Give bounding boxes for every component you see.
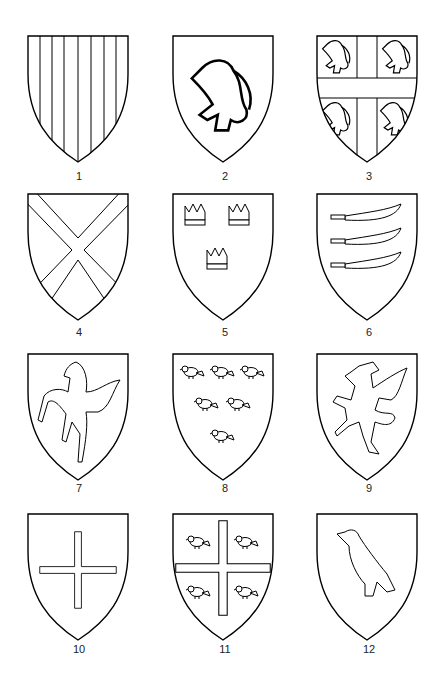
shield-5 bbox=[171, 192, 281, 324]
shield-number: 10 bbox=[24, 643, 134, 655]
shield-number: 3 bbox=[314, 170, 424, 182]
shield-10 bbox=[26, 512, 136, 644]
shield-number: 1 bbox=[24, 170, 134, 182]
shield-11 bbox=[171, 512, 281, 644]
shield-4 bbox=[26, 192, 136, 324]
shield-number: 6 bbox=[314, 326, 424, 338]
shield-3 bbox=[315, 34, 425, 166]
shield-number: 11 bbox=[170, 643, 280, 655]
shield-number: 2 bbox=[170, 170, 280, 182]
shield-number: 12 bbox=[314, 643, 424, 655]
shield-8 bbox=[171, 352, 281, 484]
shield-1 bbox=[26, 34, 136, 166]
shield-number: 9 bbox=[314, 482, 424, 494]
shield-7 bbox=[26, 352, 136, 484]
shield-6 bbox=[315, 192, 425, 324]
shield-2 bbox=[171, 34, 281, 166]
shield-9 bbox=[315, 352, 425, 484]
shield-12 bbox=[315, 512, 425, 644]
shield-number: 5 bbox=[170, 326, 280, 338]
shield-number: 4 bbox=[24, 326, 134, 338]
shield-number: 7 bbox=[24, 482, 134, 494]
shield-number: 8 bbox=[170, 482, 280, 494]
